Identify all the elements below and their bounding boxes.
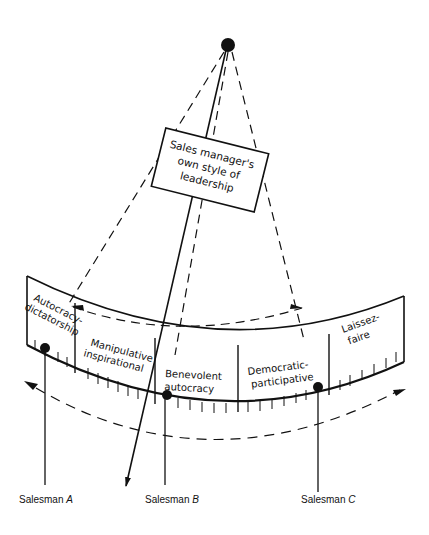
inner-range-arc — [73, 307, 302, 326]
range-lines — [68, 52, 304, 355]
outer-range-arc — [36, 388, 400, 440]
pivot-point — [221, 38, 235, 52]
salesman-c-marker — [313, 382, 323, 492]
segment-manipulative-inspirational: Manipulative inspirational — [82, 336, 157, 377]
salesman-b-label: Salesman B — [145, 494, 199, 505]
segment-democratic-participative: Democratic- participative — [247, 358, 314, 390]
outer-arc-arrow-right — [393, 389, 406, 396]
salesman-a-label: Salesman A — [19, 494, 73, 505]
segment-autocracy-dictatorship: Autocracy- dictatorship — [23, 290, 88, 338]
style-pointer-arrow — [126, 50, 226, 486]
leadership-scale-band — [27, 276, 404, 412]
salesman-b-marker — [162, 390, 172, 485]
salesman-c-label: Salesman C — [301, 494, 356, 505]
segment-benevolent-autocracy: Benevolent autocracy — [164, 368, 225, 395]
manager-style-box: Sales manager's own style of leadership — [151, 128, 268, 212]
salesman-a-marker — [40, 343, 50, 485]
leadership-diagram: Sales manager's own style of leadership … — [0, 0, 429, 535]
outer-arc-arrow-left — [24, 381, 38, 390]
